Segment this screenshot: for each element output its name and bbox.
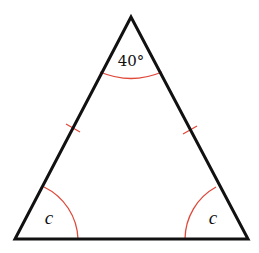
isosceles-triangle-diagram: 40° c c bbox=[0, 0, 259, 253]
apex-angle-label: 40° bbox=[118, 52, 145, 70]
right-base-angle-label: c bbox=[209, 207, 218, 228]
left-base-angle-label: c bbox=[45, 207, 54, 228]
triangle-outline bbox=[15, 17, 248, 239]
apex-angle-arc bbox=[100, 72, 162, 79]
